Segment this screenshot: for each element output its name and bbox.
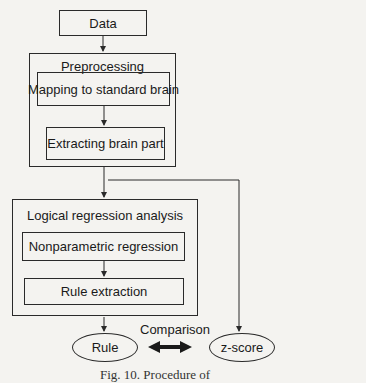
mapping-step-label: Mapping to standard brain <box>38 73 169 105</box>
rule-node: Rule <box>72 333 138 362</box>
zscore-label: z-score <box>221 340 264 355</box>
rule-extraction-step-label: Rule extraction <box>25 279 183 304</box>
logical-regression-title: Logical regression analysis <box>13 209 197 222</box>
comparison-label: Comparison <box>140 322 210 337</box>
figure-caption: Fig. 10. Procedure of <box>100 367 210 383</box>
extracting-step-node: Extracting brain part <box>46 127 165 160</box>
bidirectional-arrow-icon <box>148 341 192 353</box>
nonparametric-step-node: Nonparametric regression <box>22 232 185 261</box>
nonparametric-step-label: Nonparametric regression <box>23 233 184 260</box>
data-label: Data <box>60 11 146 35</box>
data-node: Data <box>59 10 147 36</box>
rule-label: Rule <box>92 340 119 355</box>
zscore-node: z-score <box>209 333 275 362</box>
rule-extraction-step-node: Rule extraction <box>24 278 184 305</box>
mapping-step-node: Mapping to standard brain <box>37 72 170 106</box>
extracting-step-label: Extracting brain part <box>47 128 164 159</box>
